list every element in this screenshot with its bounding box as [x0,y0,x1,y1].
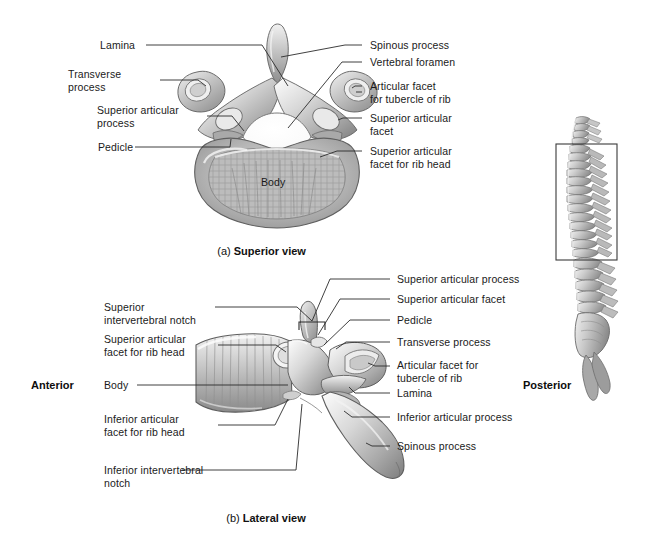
superior-view-vertebra [178,24,377,228]
label-superior-lamina: Lamina [100,39,135,52]
label-lateral-inferior-intervertebral-notch: Inferior intervertebral notch [104,464,203,489]
label-superior-articular-facet-tubercle-rib: Articular facet for tubercle of rib [370,80,451,105]
label-lateral-pedicle: Pedicle [397,314,432,327]
orientation-anterior: Anterior [31,379,74,391]
caption-b: (b) Lateral view [214,499,306,538]
label-superior-body: Body [261,176,285,189]
vertebral-column-inset [567,117,618,401]
label-lateral-superior-articular-facet: Superior articular facet [397,293,505,306]
label-superior-superior-articular-facet: Superior articular facet [370,112,452,137]
orientation-posterior: Posterior [523,379,571,391]
label-lateral-transverse-process: Transverse process [397,336,491,349]
label-superior-superior-articular-facet-rib-head: Superior articular facet for rib head [370,145,452,170]
caption-a-prefix: (a) [217,245,234,257]
label-superior-vertebral-foramen: Vertebral foramen [370,56,455,69]
caption-b-text: Lateral view [243,512,306,524]
label-lateral-articular-facet-tubercle-rib: Articular facet for tubercle of rib [397,359,478,384]
anatomy-figure: Lamina Transverse process Superior artic… [0,0,651,542]
caption-b-prefix: (b) [226,512,243,524]
label-superior-transverse-process: Transverse process [68,68,121,93]
label-superior-pedicle: Pedicle [98,141,133,154]
label-lateral-lamina: Lamina [397,387,432,400]
label-lateral-body: Body [104,379,128,392]
caption-a: (a) Superior view [205,232,306,271]
lateral-view-vertebra [196,301,404,478]
label-lateral-superior-intervertebral-notch: Superior intervertebral notch [104,301,196,326]
label-lateral-spinous-process: Spinous process [397,440,476,453]
label-lateral-inferior-articular-facet-rib-head: Inferior articular facet for rib head [104,413,185,438]
label-lateral-superior-articular-process: Superior articular process [397,273,519,286]
label-superior-spinous-process: Spinous process [370,39,449,52]
caption-a-text: Superior view [234,245,306,257]
label-superior-superior-articular-process: Superior articular process [97,104,179,129]
label-lateral-superior-articular-facet-rib-head: Superior articular facet for rib head [104,333,186,358]
label-lateral-inferior-articular-process: Inferior articular process [397,411,512,424]
